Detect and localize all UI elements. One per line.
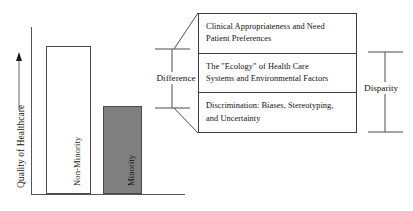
bar-label-non-minority: Non-Minority xyxy=(72,137,82,186)
y-axis-title: Quality of Healthcare xyxy=(16,105,26,188)
bar-label-minority: Minority xyxy=(126,155,136,186)
bar-non-minority xyxy=(46,46,91,194)
factor-row-clinical-appropriateness: Clinical Appropriateness and Need Patien… xyxy=(199,14,356,53)
disparity-label: Disparity xyxy=(364,82,412,94)
factor-row-discrimination: Discrimination: Biases, Stereotyping, an… xyxy=(199,92,356,132)
factor-line: Systems and Environmental Factors xyxy=(206,73,349,85)
up-arrow-icon xyxy=(16,52,22,110)
bar-minority xyxy=(103,106,142,194)
factor-line: Patient Preferences xyxy=(206,33,349,45)
factor-line: Clinical Appropriateness and Need xyxy=(206,21,349,33)
factor-box: Clinical Appropriateness and Need Patien… xyxy=(198,13,357,133)
factor-line: and Uncertainty xyxy=(206,113,349,125)
factor-row-ecology-of-health-care: The "Ecology" of Health Care Systems and… xyxy=(199,53,356,93)
factor-line: Discrimination: Biases, Stereotyping, xyxy=(206,100,349,112)
factor-line: The "Ecology" of Health Care xyxy=(206,61,349,73)
disparities-framework-diagram: Non-Minority Minority Quality of Healthc… xyxy=(0,0,413,211)
